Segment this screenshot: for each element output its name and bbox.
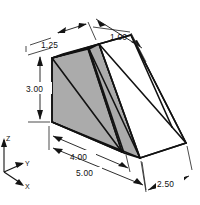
dim-5-00-arrow-right [133, 178, 143, 185]
technical-drawing-canvas: 1.25 1.00 3.00 [0, 0, 200, 205]
dim-4-00-text: 4.00 [70, 152, 87, 162]
dimension-3-00: 3.00 [22, 48, 52, 122]
isometric-wedge-drawing: 1.25 1.00 3.00 [0, 0, 200, 205]
axis-x-label: X [25, 183, 30, 190]
dim-2-50-ext-right [187, 146, 192, 170]
dim-3-00-arrow-bottom [37, 110, 43, 120]
dim-1-25-arrow-left [57, 27, 66, 33]
dim-4-00-arrow-right [118, 162, 128, 168]
axis-indicator: Z Y X [1, 135, 30, 190]
dim-5-00-text: 5.00 [76, 168, 93, 178]
dim-2-50-text: 2.50 [157, 179, 174, 189]
dim-1-25-arrow-right [78, 23, 87, 29]
dim-4-00-ext-right [126, 155, 130, 172]
wedge-solid [52, 35, 186, 158]
dim-5-00-arrow-left [53, 148, 63, 154]
dim-4-00-arrow-left [53, 136, 63, 142]
axis-y-label: Y [25, 160, 30, 167]
dim-2-50-ext-left [141, 161, 146, 192]
dim-1-25-ext-right [88, 22, 96, 40]
dim-1-00-text: 1.00 [110, 32, 127, 42]
dim-3-00-ext-top [28, 48, 51, 55]
dim-1-00-arrow-left [97, 20, 106, 27]
axis-z-label: Z [6, 135, 11, 142]
dim-3-00-arrow-top [37, 56, 43, 66]
dim-3-00-text: 3.00 [26, 84, 43, 94]
